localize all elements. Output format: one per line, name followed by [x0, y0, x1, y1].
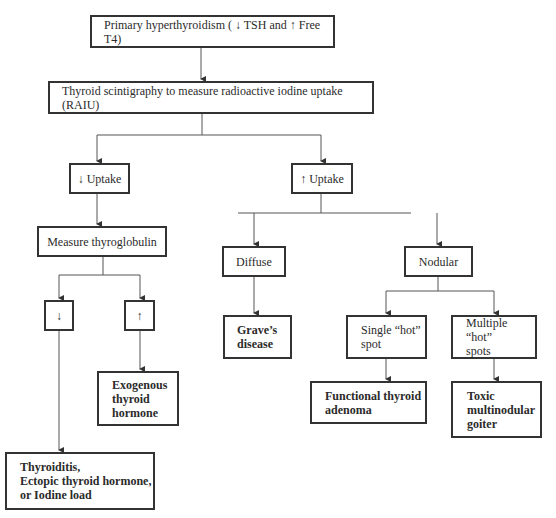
- node-label: Primary hyperthyroidism ( ↓ TSH and ↑ Fr…: [104, 18, 333, 46]
- node-primary-hyperthyroidism: Primary hyperthyroidism ( ↓ TSH and ↑ Fr…: [90, 15, 335, 48]
- node-label: Diffuse: [236, 255, 272, 269]
- node-label: Thyroiditis, Ectopic thyroid hormone, or…: [20, 460, 151, 502]
- node-low-uptake: ↓ Uptake: [69, 163, 130, 194]
- node-exogenous-thyroid-hormone: Exogenous thyroid hormone: [97, 371, 179, 426]
- node-thyroid-scintigraphy: Thyroid scintigraphy to measure radioact…: [48, 81, 374, 114]
- node-high-uptake: ↑ Uptake: [291, 163, 353, 194]
- node-graves-disease: Grave’s disease: [223, 315, 292, 359]
- node-label: Measure thyroglobulin: [47, 235, 157, 249]
- node-measure-thyroglobulin: Measure thyroglobulin: [37, 226, 167, 257]
- node-label: ↓: [56, 309, 62, 323]
- node-label: Single “hot” spot: [361, 323, 421, 351]
- node-label: Nodular: [419, 255, 458, 269]
- node-label: ↓ Uptake: [78, 172, 122, 186]
- node-label: ↑ Uptake: [300, 172, 344, 186]
- node-toxic-multinodular-goiter: Toxic multinodular goiter: [451, 381, 542, 438]
- node-label: Exogenous thyroid hormone: [112, 378, 167, 420]
- node-label: Functional thyroid adenoma: [325, 389, 421, 417]
- node-thyroglobulin-high: ↑: [124, 300, 155, 331]
- node-diffuse: Diffuse: [222, 246, 286, 277]
- node-thyroglobulin-low: ↓: [44, 300, 74, 331]
- node-nodular: Nodular: [404, 246, 473, 277]
- node-label: Toxic multinodular goiter: [467, 389, 535, 431]
- node-label: Thyroid scintigraphy to measure radioact…: [62, 84, 372, 112]
- node-label: ↑: [137, 309, 143, 323]
- node-label: Multiple “hot” spots: [466, 316, 535, 358]
- node-functional-thyroid-adenoma: Functional thyroid adenoma: [310, 381, 427, 424]
- node-label: Grave’s disease: [237, 323, 277, 351]
- node-thyroiditis: Thyroiditis, Ectopic thyroid hormone, or…: [5, 452, 155, 510]
- node-single-hot-spot: Single “hot” spot: [346, 315, 427, 359]
- node-multiple-hot-spots: Multiple “hot” spots: [451, 315, 537, 359]
